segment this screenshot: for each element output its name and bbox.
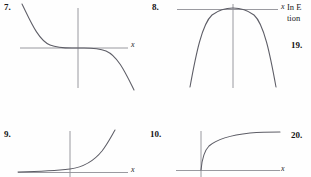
textbook-page: 7. x 8. x <box>0 0 311 177</box>
figure-10-x-label: x <box>281 165 285 173</box>
figure-10-number: 10. <box>150 130 161 139</box>
figure-10-plot <box>170 129 288 177</box>
figure-8-x-label: x <box>281 3 285 11</box>
side-column: In E tion 19. 20. <box>287 0 311 177</box>
side-paragraph-line-1: In E <box>287 2 301 13</box>
figure-8-svg <box>170 2 288 88</box>
figure-8: 8. x <box>148 0 288 88</box>
figure-9-svg <box>16 129 141 177</box>
figure-9: 9. x <box>0 120 145 177</box>
figure-10-curve <box>201 132 280 170</box>
exercise-number-20: 20. <box>291 131 302 140</box>
figure-7-svg <box>16 2 141 88</box>
figure-8-number: 8. <box>152 3 159 12</box>
figure-7-plot <box>16 2 141 88</box>
exercise-number-19: 19. <box>291 41 302 50</box>
figure-7: 7. x <box>0 0 145 88</box>
figure-9-x-label: x <box>131 166 135 174</box>
figure-7-number: 7. <box>4 3 11 12</box>
figure-10-svg <box>170 129 288 177</box>
figure-9-curve <box>18 130 115 172</box>
figure-8-plot <box>170 2 288 88</box>
figure-9-number: 9. <box>4 130 11 139</box>
side-paragraph-line-2: tion <box>287 13 300 24</box>
figure-9-plot <box>16 129 141 177</box>
figure-7-x-label: x <box>131 41 135 49</box>
figure-10: 10. x <box>148 120 288 177</box>
